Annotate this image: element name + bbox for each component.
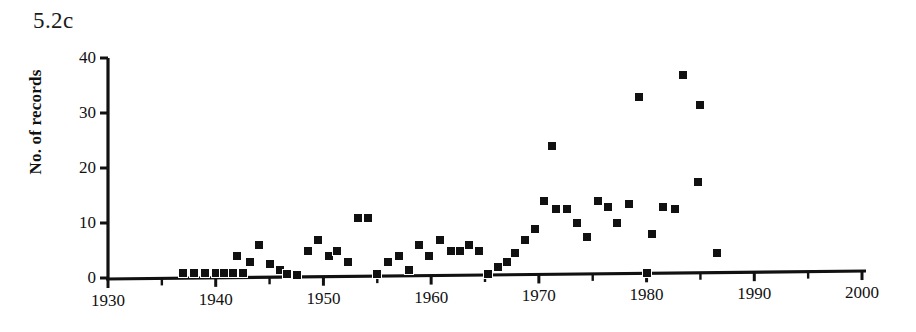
x-tick-label: 1930 [73,292,143,309]
data-point [563,205,571,213]
y-tick-label: 10 [56,214,96,231]
data-point [531,225,539,233]
data-point [635,93,643,101]
data-point [594,197,602,205]
data-point [233,252,241,260]
data-point [694,178,702,186]
data-point [255,241,263,249]
x-tick-label: 1960 [396,289,466,306]
y-tick-label: 30 [56,104,96,121]
data-point [548,142,556,150]
data-point [304,247,312,255]
data-point [220,269,228,277]
data-point [415,241,423,249]
data-point [625,200,633,208]
data-point [604,203,612,211]
y-tick-label: 20 [56,159,96,176]
data-point [671,205,679,213]
data-point [293,271,301,279]
x-tick-label: 1940 [181,291,251,308]
data-point [583,233,591,241]
scatter-plot-area: No. of records 010203040 193019401950196… [0,0,916,332]
x-tick-label: 1990 [719,285,789,302]
data-point [713,249,721,257]
data-point [659,203,667,211]
data-point [573,219,581,227]
data-point [643,269,651,277]
data-point [494,263,502,271]
data-point [179,269,187,277]
data-point [552,205,560,213]
data-point [266,260,274,268]
data-point [679,71,687,79]
x-tick-label: 1980 [612,286,682,303]
data-point [384,258,392,266]
data-point [436,236,444,244]
data-point [373,270,381,278]
data-point [465,241,473,249]
data-point [239,269,247,277]
data-point [190,269,198,277]
data-point [333,247,341,255]
data-point [212,269,220,277]
data-point [344,258,352,266]
data-point [484,270,492,278]
data-point [613,219,621,227]
x-tick-label: 1970 [504,287,574,304]
y-tick-label: 0 [56,269,96,286]
x-tick-label: 1950 [288,290,358,307]
data-point [648,230,656,238]
y-tick-label: 40 [56,49,96,66]
data-point [475,247,483,255]
data-point [456,247,464,255]
data-point [246,258,254,266]
data-point [425,252,433,260]
data-point [201,269,209,277]
data-point [395,252,403,260]
data-point [325,252,333,260]
data-point [511,249,519,257]
data-point [447,247,455,255]
data-point [521,236,529,244]
axes-lines [0,0,916,332]
data-point [364,214,372,222]
data-point [696,101,704,109]
x-tick-label: 2000 [827,284,897,301]
data-point [405,266,413,274]
figure-root: 5.2c No. of records 010203040 1930194019… [0,0,916,332]
data-point [503,258,511,266]
data-point [540,197,548,205]
data-point [229,269,237,277]
data-point [314,236,322,244]
data-point [283,270,291,278]
data-point [354,214,362,222]
